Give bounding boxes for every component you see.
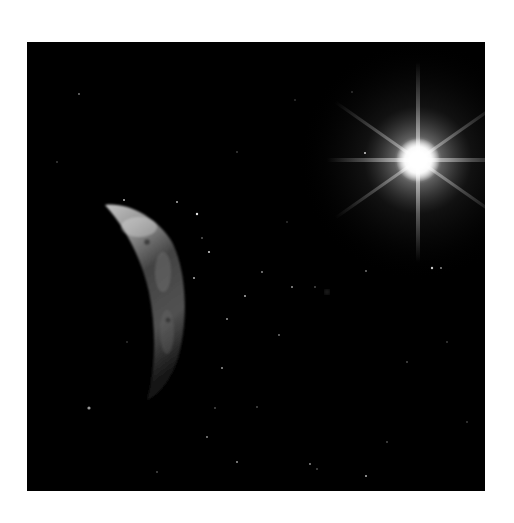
- space-image: [27, 42, 485, 491]
- star-flare: [298, 42, 485, 280]
- space-scene-illustration: [27, 42, 485, 491]
- crescent-planet: [105, 205, 185, 400]
